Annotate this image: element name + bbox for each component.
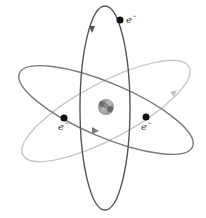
arrow-icon [92,127,99,134]
arrow-icon [89,26,95,33]
svg-text:e−: e− [58,119,69,132]
nucleus [98,99,114,115]
electron: e− [117,12,137,25]
svg-text:e−: e− [126,12,137,25]
atom-diagram: e− e− e− [0,0,206,218]
svg-text:e−: e− [141,119,152,132]
